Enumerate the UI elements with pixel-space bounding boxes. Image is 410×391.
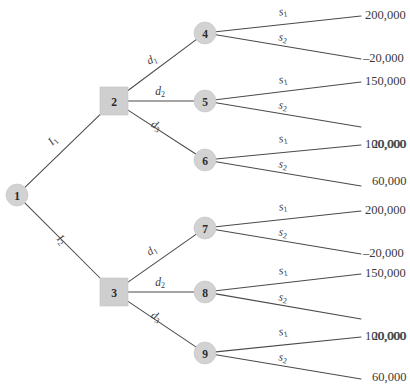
payoff-value-o-8-s1: 150,000 <box>365 266 406 280</box>
payoff-value-o-9-s1: 100,000 <box>365 329 406 343</box>
terminal-line-o-8-s1 <box>216 274 361 291</box>
payoff-value-o-6-s2: 60,000 <box>372 174 406 188</box>
nodes-group: 123456789 <box>6 22 216 364</box>
tree-canvas: 123456789 200,000–20,000150,00020,000100… <box>0 0 410 391</box>
edge-label-e-3-8: d2 <box>155 276 165 290</box>
outcome-label-o-5-s1: s1 <box>278 72 288 87</box>
payoff-value-o-6-s1: 100,000 <box>365 137 406 151</box>
node-label-1: 1 <box>14 190 20 202</box>
payoff-value-o-9-s2: 60,000 <box>372 370 406 384</box>
payoff-value-o-7-s2: –20,000 <box>362 246 404 260</box>
branch-line-e-2-4 <box>128 40 196 91</box>
outcome-label-o-8-s1: s1 <box>278 263 288 278</box>
decision-tree-diagram: 123456789 200,000–20,000150,00020,000100… <box>0 0 410 391</box>
terminal-line-o-6-s1 <box>216 145 361 159</box>
payoff-value-o-5-s1: 150,000 <box>365 74 406 88</box>
node-label-9: 9 <box>202 348 208 360</box>
terminal-line-o-8-s2 <box>216 294 361 319</box>
payoff-value-o-4-s2: –20,000 <box>362 51 404 65</box>
outcome-label-o-9-s1: s1 <box>278 324 288 339</box>
payoff-value-o-4-s1: 200,000 <box>365 8 406 22</box>
edge-label-e-2-5: d2 <box>155 85 165 99</box>
branch-line-e-3-9 <box>128 301 196 346</box>
terminal-line-o-9-s1 <box>216 337 361 352</box>
terminal-line-o-4-s1 <box>216 16 361 32</box>
outcome-label-o-4-s1: s1 <box>278 4 288 19</box>
terminal-line-o-9-s2 <box>216 355 361 379</box>
node-label-3: 3 <box>111 287 117 299</box>
terminal-line-o-7-s2 <box>216 230 361 254</box>
branch-line-e-2-6 <box>128 110 196 154</box>
terminal-line-o-7-s1 <box>216 211 361 227</box>
node-label-7: 7 <box>202 223 208 235</box>
node-label-8: 8 <box>202 287 208 299</box>
branch-line-e-1-2 <box>25 115 100 188</box>
terminal-line-o-5-s1 <box>216 82 361 100</box>
outcome-label-o-7-s1: s1 <box>278 199 288 214</box>
node-label-4: 4 <box>202 28 208 40</box>
outcome-label-o-6-s1: s1 <box>278 131 288 146</box>
edge-label-subscript: 2 <box>161 281 165 290</box>
node-label-6: 6 <box>202 155 208 167</box>
terminal-line-o-5-s2 <box>216 103 361 127</box>
terminal-line-o-6-s2 <box>216 162 361 186</box>
payoff-labels-group: 200,000–20,000150,00020,000100,00060,000… <box>362 8 406 384</box>
terminal-line-o-4-s2 <box>216 35 361 59</box>
terminal-lines-group <box>216 16 361 379</box>
payoff-value-o-7-s1: 200,000 <box>365 203 406 217</box>
edge-label-subscript: 2 <box>161 90 165 99</box>
node-label-5: 5 <box>202 96 208 108</box>
node-label-2: 2 <box>111 96 117 108</box>
